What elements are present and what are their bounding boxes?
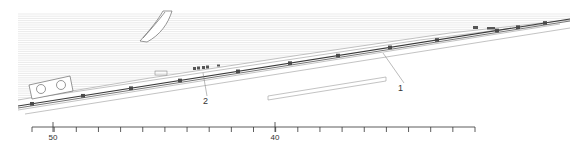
callout-label-1: 1 xyxy=(398,84,403,93)
scale-bar xyxy=(32,122,475,132)
callout-label-2: 2 xyxy=(203,97,208,106)
scale-label-40: 40 xyxy=(271,134,280,142)
drawing-canvas: 12 5040 xyxy=(0,0,578,153)
site-drawing xyxy=(0,0,578,153)
track-lines xyxy=(18,19,570,108)
scale-label-50: 50 xyxy=(49,134,58,142)
equipment-blocks xyxy=(155,26,495,75)
hatched-area xyxy=(18,14,570,100)
tank-box xyxy=(29,76,73,99)
callout-leaders xyxy=(203,53,404,96)
boat-shape xyxy=(140,11,172,42)
